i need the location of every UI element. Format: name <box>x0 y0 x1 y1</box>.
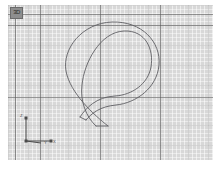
axis-origin-marker <box>25 140 28 143</box>
hook-end-cap-tail[interactable] <box>80 117 86 120</box>
hook-outer-curve[interactable] <box>65 22 159 126</box>
axis-y-label: Y <box>44 141 47 145</box>
swept-hook-profile[interactable] <box>65 22 159 126</box>
view-label-icon[interactable]: 3D <box>10 7 23 19</box>
orientation-axes[interactable]: Z Y X <box>20 114 60 148</box>
hook-inner-curve[interactable] <box>80 31 152 126</box>
axis-z-marker <box>25 117 28 120</box>
3d-modeling-viewport[interactable]: 3D Z Y X <box>8 5 213 160</box>
axis-z-label: Z <box>20 114 22 118</box>
application-root: 3D Z Y X <box>0 0 221 169</box>
axis-x-label: X <box>53 140 56 144</box>
